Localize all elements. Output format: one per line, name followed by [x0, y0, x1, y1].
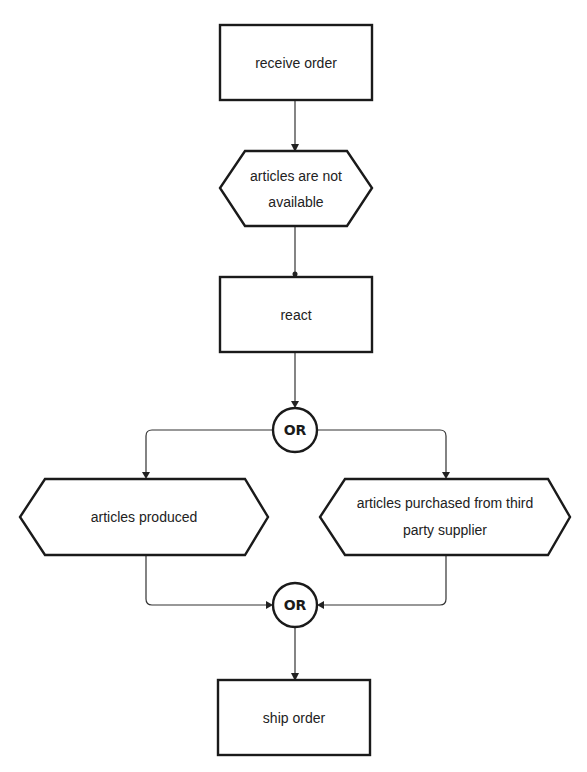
event-label-line1: articles are not	[250, 168, 342, 184]
event-articles-produced[interactable]: articles produced	[20, 479, 268, 555]
connector-label: OR	[284, 422, 307, 438]
function-receive-order[interactable]: receive order	[220, 25, 372, 100]
event-articles-not-available[interactable]: articles are not available	[220, 151, 372, 226]
function-label: react	[280, 307, 311, 323]
event-label-line1: articles purchased from third	[357, 495, 534, 511]
event-articles-purchased[interactable]: articles purchased from third party supp…	[320, 479, 570, 555]
function-react[interactable]: react	[220, 277, 372, 352]
event-label: articles produced	[91, 509, 198, 525]
function-ship-order[interactable]: ship order	[218, 680, 370, 755]
event-label-line2: party supplier	[403, 522, 487, 538]
connector-label: OR	[284, 597, 307, 613]
function-label: ship order	[263, 710, 326, 726]
function-label: receive order	[255, 55, 337, 71]
epc-diagram: receive order articles are not available…	[0, 0, 587, 772]
or-connector-join[interactable]: OR	[273, 583, 317, 627]
or-connector-split[interactable]: OR	[273, 408, 317, 452]
event-label-line2: available	[268, 194, 323, 210]
